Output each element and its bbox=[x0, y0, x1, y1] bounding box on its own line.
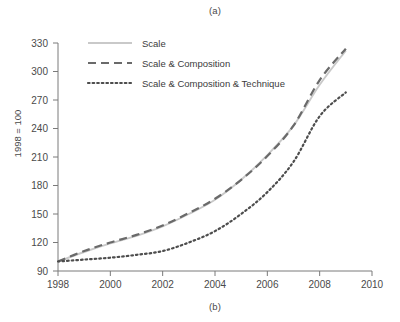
x-tick-marks bbox=[58, 271, 372, 276]
y-tick-label: 270 bbox=[31, 95, 48, 106]
y-tick-label: 210 bbox=[31, 152, 48, 163]
y-axis: 90120150180210240270300330 bbox=[31, 38, 58, 277]
y-tick-label: 240 bbox=[31, 123, 48, 134]
figure-caption-bottom: (b) bbox=[0, 301, 400, 312]
figure-caption-top: (a) bbox=[0, 5, 400, 16]
y-tick-label: 90 bbox=[37, 266, 49, 277]
legend-label: Scale & Composition bbox=[142, 58, 230, 69]
x-tick-label: 2008 bbox=[309, 279, 332, 290]
x-tick-label: 2010 bbox=[361, 279, 384, 290]
x-tick-labels: 1998200020022004200620082010 bbox=[47, 279, 384, 290]
legend-label: Scale & Composition & Technique bbox=[142, 78, 285, 89]
x-tick-label: 1998 bbox=[47, 279, 70, 290]
series-line bbox=[58, 92, 346, 261]
y-tick-marks bbox=[53, 43, 58, 271]
x-axis: 1998200020022004200620082010 bbox=[47, 271, 384, 290]
line-chart: 90120150180210240270300330 1998200020022… bbox=[0, 0, 400, 300]
y-tick-label: 120 bbox=[31, 237, 48, 248]
x-tick-label: 2000 bbox=[99, 279, 122, 290]
x-tick-label: 2004 bbox=[204, 279, 227, 290]
y-axis-label: 1998 = 100 bbox=[12, 84, 23, 184]
y-tick-label: 150 bbox=[31, 209, 48, 220]
y-tick-labels: 90120150180210240270300330 bbox=[31, 38, 48, 277]
y-tick-label: 180 bbox=[31, 180, 48, 191]
x-tick-label: 2006 bbox=[256, 279, 279, 290]
y-tick-label: 330 bbox=[31, 38, 48, 49]
figure-panel: (a) 1998 = 100 9012015018021024027030033… bbox=[0, 0, 400, 322]
chart-legend: ScaleScale & CompositionScale & Composit… bbox=[88, 38, 285, 89]
legend-label: Scale bbox=[142, 38, 166, 49]
x-tick-label: 2002 bbox=[152, 279, 175, 290]
y-tick-label: 300 bbox=[31, 66, 48, 77]
